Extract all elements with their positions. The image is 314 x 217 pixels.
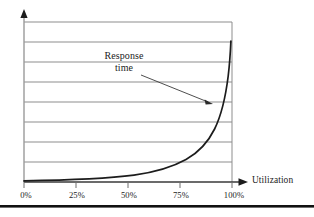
- x-tick-label-25: 25%: [69, 190, 85, 200]
- annotation-response-time: Response time: [104, 50, 143, 73]
- x-tick-label-100: 100%: [224, 190, 244, 200]
- footer-rule: [0, 205, 314, 208]
- response-time-utilization-figure: Response time 0% 25% 50% 75% 100% Utiliz…: [0, 0, 314, 217]
- x-tick-label-0: 0%: [20, 190, 32, 200]
- annotation-line-2: time: [104, 62, 143, 74]
- x-axis-title: Utilization: [252, 175, 293, 185]
- x-tick-label-50: 50%: [121, 190, 137, 200]
- x-tick-label-75: 75%: [173, 190, 189, 200]
- annotation-line-1: Response: [104, 50, 143, 62]
